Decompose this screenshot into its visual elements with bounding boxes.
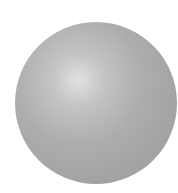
gray-sphere [15, 22, 177, 184]
